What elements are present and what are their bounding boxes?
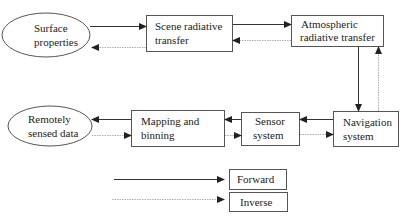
mapping-line1: Mapping and (141, 115, 200, 127)
legend-inverse-label: Inverse (240, 196, 272, 208)
node-mapping-and-binning: Mapping and binning (132, 111, 225, 147)
node-sensor-system: Sensor system (242, 113, 300, 146)
node-navigation-system: Navigation system (334, 112, 399, 147)
legend: Forward Inverse (112, 170, 288, 212)
remote-data-line2: sensed data (28, 127, 79, 139)
node-remotely-sensed-data: Remotely sensed data (8, 106, 92, 146)
sensor-line2: system (253, 129, 284, 141)
atmos-rt-line1: Atmospheric (301, 18, 358, 30)
node-scene-radiative-transfer: Scene radiative transfer (147, 16, 233, 52)
mapping-line2: binning (141, 129, 175, 141)
remote-data-line1: Remotely (28, 113, 71, 125)
scene-rt-line1: Scene radiative (155, 20, 223, 32)
node-surface-properties: Surface properties (2, 13, 90, 57)
surface-properties-line2: properties (34, 36, 78, 48)
navigation-line1: Navigation (343, 116, 392, 128)
navigation-line2: system (343, 130, 374, 142)
node-atmospheric-radiative-transfer: Atmospheric radiative transfer (292, 16, 384, 47)
legend-forward-label: Forward (237, 173, 275, 185)
atmos-rt-line2: radiative transfer (300, 31, 375, 43)
scene-rt-line2: transfer (155, 34, 189, 46)
sensor-line1: Sensor (255, 115, 285, 127)
flow-diagram: Surface properties Scene radiative trans… (0, 0, 407, 218)
surface-properties-line1: Surface (34, 22, 68, 34)
